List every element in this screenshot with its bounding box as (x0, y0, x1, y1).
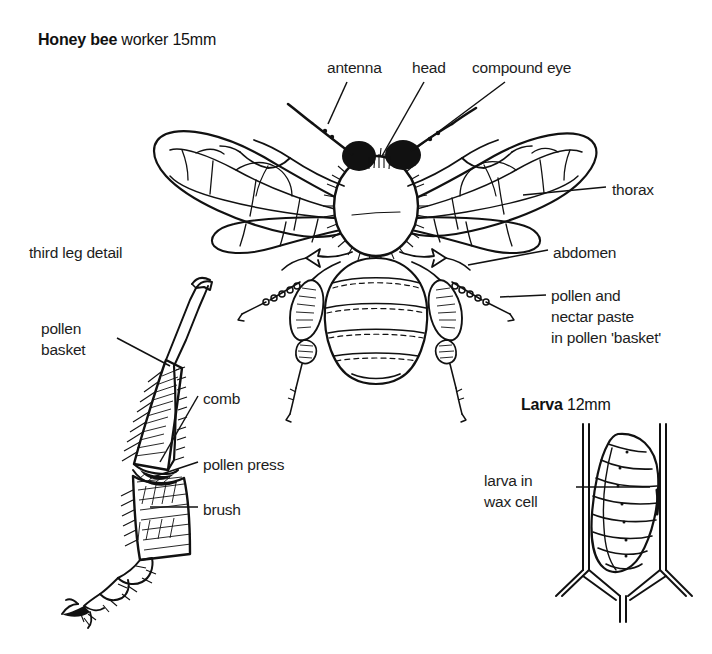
larva-title-strong: Larva (521, 396, 563, 413)
leader-pollen-nectar (500, 295, 546, 297)
label-antenna: antenna (327, 58, 382, 77)
larva-in-wax-cell-illustration (556, 424, 692, 622)
honey-bee-illustration (154, 104, 596, 422)
honeybee-title: Honey bee worker 15mm (38, 31, 216, 49)
label-larva-in-wax-cell: larva in wax cell (484, 470, 538, 512)
label-pollen-and-nectar-paste: pollen and nectar paste in pollen 'baske… (551, 285, 661, 348)
label-third-leg-detail: third leg detail (29, 243, 122, 262)
leader-pollen-basket (117, 338, 170, 366)
label-pollen-press: pollen press (203, 455, 284, 474)
left-compound-eye (342, 141, 376, 171)
bee-anatomy-diagram: Honey bee worker 15mm antenna head compo… (0, 0, 712, 654)
label-abdomen: abdomen (553, 243, 616, 262)
larva-title: Larva 12mm (521, 396, 611, 414)
label-head: head (412, 58, 446, 77)
label-comb: comb (203, 389, 240, 408)
bee-abdomen (325, 258, 427, 384)
right-compound-eye (385, 140, 421, 170)
leader-antenna (328, 82, 347, 124)
label-brush: brush (203, 500, 241, 519)
label-compound-eye: compound eye (472, 58, 571, 77)
larva-title-rest: 12mm (563, 396, 611, 413)
honeybee-title-strong: Honey bee (38, 31, 117, 48)
label-thorax: thorax (612, 180, 654, 199)
honeybee-title-rest: worker 15mm (117, 31, 216, 48)
label-pollen-basket: pollen basket (41, 318, 85, 360)
leader-comb (160, 396, 198, 462)
leader-compound-eye (414, 82, 505, 150)
leader-pollen-press (150, 462, 198, 478)
antennae (288, 104, 476, 154)
